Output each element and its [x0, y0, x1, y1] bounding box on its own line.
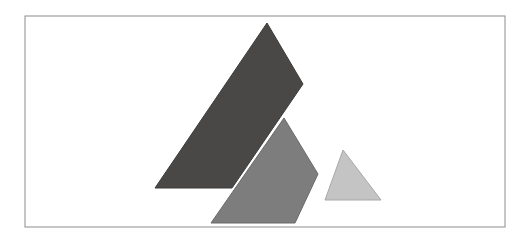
abstract-shapes-figure	[0, 0, 532, 245]
image-canvas	[0, 0, 532, 245]
